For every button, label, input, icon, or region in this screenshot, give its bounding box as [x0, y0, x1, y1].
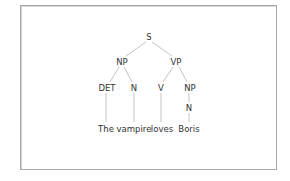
word-boris: Boris — [178, 124, 200, 134]
word-vampire: vampire — [117, 124, 152, 134]
tree-nodes: S NP VP DET N V NP N — [98, 32, 195, 113]
edge-vp-np — [179, 67, 187, 82]
edge-s-np — [126, 42, 146, 56]
word-the: The — [97, 124, 114, 134]
node-v: V — [158, 83, 164, 93]
edge-np-n — [124, 67, 132, 82]
sentence-words: The vampire loves Boris — [97, 124, 200, 134]
word-loves: loves — [151, 124, 174, 134]
tree-edges — [106, 42, 189, 122]
node-np-object: NP — [184, 83, 195, 93]
syntax-tree: S NP VP DET N V NP N The vampire loves B… — [0, 0, 290, 181]
node-vp: VP — [171, 57, 182, 67]
edge-s-vp — [152, 42, 172, 56]
node-n-object: N — [186, 103, 192, 113]
node-np: NP — [116, 57, 127, 67]
node-det: DET — [98, 83, 116, 93]
node-s: S — [146, 32, 151, 42]
edge-vp-v — [163, 67, 173, 82]
node-n: N — [131, 83, 137, 93]
edge-np-det — [110, 67, 119, 82]
